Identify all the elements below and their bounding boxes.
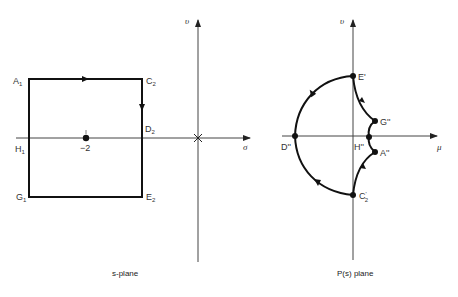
label-D2: D2 xyxy=(145,124,156,135)
point-G xyxy=(372,118,378,124)
point-E xyxy=(350,73,356,79)
label-C2: C2 xyxy=(146,76,157,87)
label-H-double-prime: H'' xyxy=(354,142,364,152)
label-G1: G1 xyxy=(16,192,27,203)
point-A xyxy=(372,149,378,155)
v-axis-label-p: υ xyxy=(340,16,344,26)
label-H1: H1 xyxy=(15,144,26,155)
label-A1: A1 xyxy=(13,76,23,87)
p-plane-caption: P(s) plane xyxy=(337,269,374,278)
point-D xyxy=(292,133,298,139)
sigma-axis-label: σ xyxy=(243,142,248,152)
point-H xyxy=(366,134,372,140)
label-A-double-prime: A'' xyxy=(380,148,390,158)
direction-arrow-icon xyxy=(307,88,316,97)
tick-label-minus-2: −2 xyxy=(80,143,90,153)
direction-arrow-icon xyxy=(139,104,145,111)
diagram-canvas: υ σ −2 A1 C2 D2 H1 G1 E2 s-plane υ μ xyxy=(0,0,458,297)
label-E2: E2 xyxy=(146,192,156,203)
v-axis-label-s: υ xyxy=(185,16,189,26)
s-plane-caption: s-plane xyxy=(112,269,139,278)
point-C2 xyxy=(350,192,356,198)
p-plane: υ μ E' G'' H'' A'' D'' C'2 P(s) plane xyxy=(281,16,442,278)
label-E-prime: E' xyxy=(358,72,366,82)
label-D-double-prime: D'' xyxy=(281,142,291,152)
mu-axis-label: μ xyxy=(436,142,442,152)
label-C2-prime: C'2 xyxy=(359,191,369,203)
s-plane: υ σ −2 A1 C2 D2 H1 G1 E2 s-plane xyxy=(13,16,250,278)
direction-arrow-icon xyxy=(82,76,89,82)
label-G-double-prime: G'' xyxy=(380,117,391,127)
point-minus-2 xyxy=(83,135,89,141)
